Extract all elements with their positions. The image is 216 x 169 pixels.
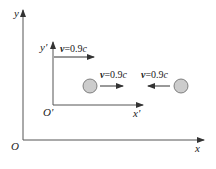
y-axis-label: y: [13, 7, 19, 19]
frame-s-axes: y O x: [11, 7, 204, 154]
left-ball-velocity-label: v=0.9c: [100, 69, 128, 80]
right-ball: [174, 79, 188, 93]
frame-velocity-label: v=0.9c: [60, 43, 88, 54]
left-ball-group: v=0.9c: [83, 69, 128, 93]
right-ball-group: v=0.9c: [141, 69, 188, 93]
relativity-diagram: y O x y' O' x' v=0.9c v=0.9c v=0.9c: [0, 0, 216, 169]
right-ball-velocity-label: v=0.9c: [141, 69, 169, 80]
origin-label: O: [11, 140, 19, 152]
left-ball: [83, 79, 97, 93]
x-axis-label: x: [194, 142, 200, 154]
x-prime-axis-label: x': [132, 107, 141, 119]
origin-prime-label: O': [43, 106, 54, 118]
y-prime-axis-label: y': [39, 41, 48, 53]
